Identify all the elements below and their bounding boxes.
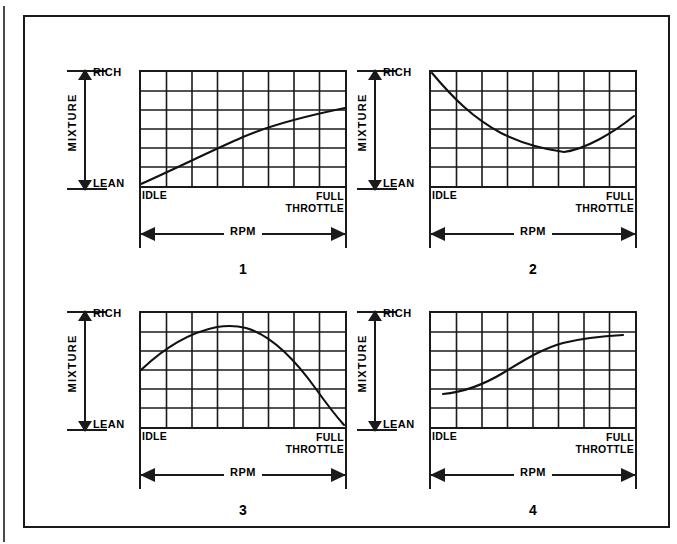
y-axis-line (374, 73, 376, 187)
figure-4-plot-area (429, 311, 637, 429)
figure-4-number: 4 (429, 502, 637, 518)
y-axis-title-mixture: MIXTURE (67, 335, 78, 393)
y-axis-title-mixture: MIXTURE (357, 335, 368, 393)
x-axis-label-throttle: THROTTLE (286, 202, 344, 214)
x-axis-label-full-throttle: FULLTHROTTLE (576, 190, 634, 214)
x-axis-title-rpm-text: RPM (514, 225, 552, 237)
x-axis-label-full: FULL (606, 190, 634, 202)
y-axis-label-lean: LEAN (383, 419, 415, 430)
figure-1-y-axis: RICH LEAN MIXTURE (63, 70, 139, 190)
y-axis-label-rich: RICH (383, 67, 412, 78)
arrow-down-icon (368, 421, 382, 432)
figure-3-x-axis: RPM IDLE FULLTHROTTLE (139, 429, 347, 503)
figure-4-y-axis: RICH LEAN MIXTURE (353, 311, 429, 431)
arrow-up-icon (78, 69, 92, 80)
figure-3-y-axis: RICH LEAN MIXTURE (63, 311, 139, 431)
arrow-up-icon (78, 310, 92, 321)
x-axis-label-idle: IDLE (432, 190, 457, 201)
x-axis-label-full: FULL (606, 431, 634, 443)
arrow-up-icon (368, 310, 382, 321)
x-axis-title-rpm: RPM (429, 467, 637, 478)
y-axis-line (84, 314, 86, 428)
figure-2-plot-area (429, 70, 637, 188)
x-axis-label-full-throttle: FULLTHROTTLE (286, 431, 344, 455)
y-axis-label-rich: RICH (383, 308, 412, 319)
x-axis-title-rpm-text: RPM (514, 466, 552, 478)
figure-2-number: 2 (429, 261, 637, 277)
y-axis-label-lean: LEAN (93, 419, 125, 430)
figure-4-gridlines (431, 313, 635, 427)
illustration-frame: RICH LEAN MIXTURE (23, 15, 670, 528)
x-axis-title-rpm: RPM (139, 467, 347, 478)
figure-3-number: 3 (139, 502, 347, 518)
y-axis-title-mixture: MIXTURE (357, 94, 368, 152)
figure-1: RICH LEAN MIXTURE (63, 55, 363, 295)
figure-2-gridlines (431, 72, 635, 186)
arrow-down-icon (78, 180, 92, 191)
figure-4-svg (431, 313, 635, 427)
y-axis-label-rich: RICH (93, 67, 122, 78)
x-axis-label-idle: IDLE (142, 431, 167, 442)
figure-3: RICH LEAN MIXTURE (63, 296, 363, 536)
figure-4-x-axis: RPM IDLE FULLTHROTTLE (429, 429, 637, 503)
figure-4: RICH LEAN MIXTURE (353, 296, 653, 536)
figure-1-svg (141, 72, 345, 186)
x-axis-label-full: FULL (316, 190, 344, 202)
y-axis-label-lean: LEAN (383, 178, 415, 189)
arrow-up-icon (368, 69, 382, 80)
y-axis-line (374, 314, 376, 428)
x-axis-label-full: FULL (316, 431, 344, 443)
figure-2-y-axis: RICH LEAN MIXTURE (353, 70, 429, 190)
figure-3-gridlines (141, 313, 345, 427)
y-axis-line (84, 73, 86, 187)
x-axis-label-idle: IDLE (432, 431, 457, 442)
figure-2: RICH LEAN MIXTURE (353, 55, 653, 295)
arrow-down-icon (368, 180, 382, 191)
x-axis-label-full-throttle: FULLTHROTTLE (286, 190, 344, 214)
x-axis-title-rpm-text: RPM (224, 225, 262, 237)
figure-1-plot-area (139, 70, 347, 188)
figure-2-x-axis: RPM IDLE FULLTHROTTLE (429, 188, 637, 262)
figure-1-number: 1 (139, 261, 347, 277)
figure-3-svg (141, 313, 345, 427)
x-axis-title-rpm-text: RPM (224, 466, 262, 478)
x-axis-title-rpm: RPM (139, 226, 347, 237)
x-axis-label-throttle: THROTTLE (576, 443, 634, 455)
x-axis-title-rpm: RPM (429, 226, 637, 237)
y-axis-title-mixture: MIXTURE (67, 94, 78, 152)
y-axis-label-lean: LEAN (93, 178, 125, 189)
figure-1-x-axis: RPM IDLE FULLTHROTTLE (139, 188, 347, 262)
figure-2-svg (431, 72, 635, 186)
x-axis-label-throttle: THROTTLE (576, 202, 634, 214)
x-axis-label-full-throttle: FULLTHROTTLE (576, 431, 634, 455)
x-axis-label-idle: IDLE (142, 190, 167, 201)
page-scan-edge-line (3, 6, 5, 542)
arrow-down-icon (78, 421, 92, 432)
x-axis-label-throttle: THROTTLE (286, 443, 344, 455)
figure-3-plot-area (139, 311, 347, 429)
y-axis-label-rich: RICH (93, 308, 122, 319)
